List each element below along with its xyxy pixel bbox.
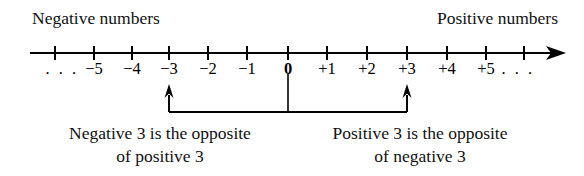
number-line-figure: Negative numbers Positive numbers −5−4−3…: [0, 0, 584, 176]
right-caption-line1: Positive 3 is the opposite: [333, 123, 508, 143]
left-caption-line1: Negative 3 is the opposite: [69, 123, 251, 143]
right-caption-line2: of negative 3: [333, 145, 508, 168]
left-caption: Negative 3 is the opposite of positive 3: [69, 122, 251, 168]
left-caption-line2: of positive 3: [69, 145, 251, 168]
positive-numbers-label: Positive numbers: [437, 8, 558, 28]
right-caption: Positive 3 is the opposite of negative 3: [333, 122, 508, 168]
opposites-bracket: [0, 74, 584, 120]
negative-numbers-label: Negative numbers: [32, 8, 160, 28]
